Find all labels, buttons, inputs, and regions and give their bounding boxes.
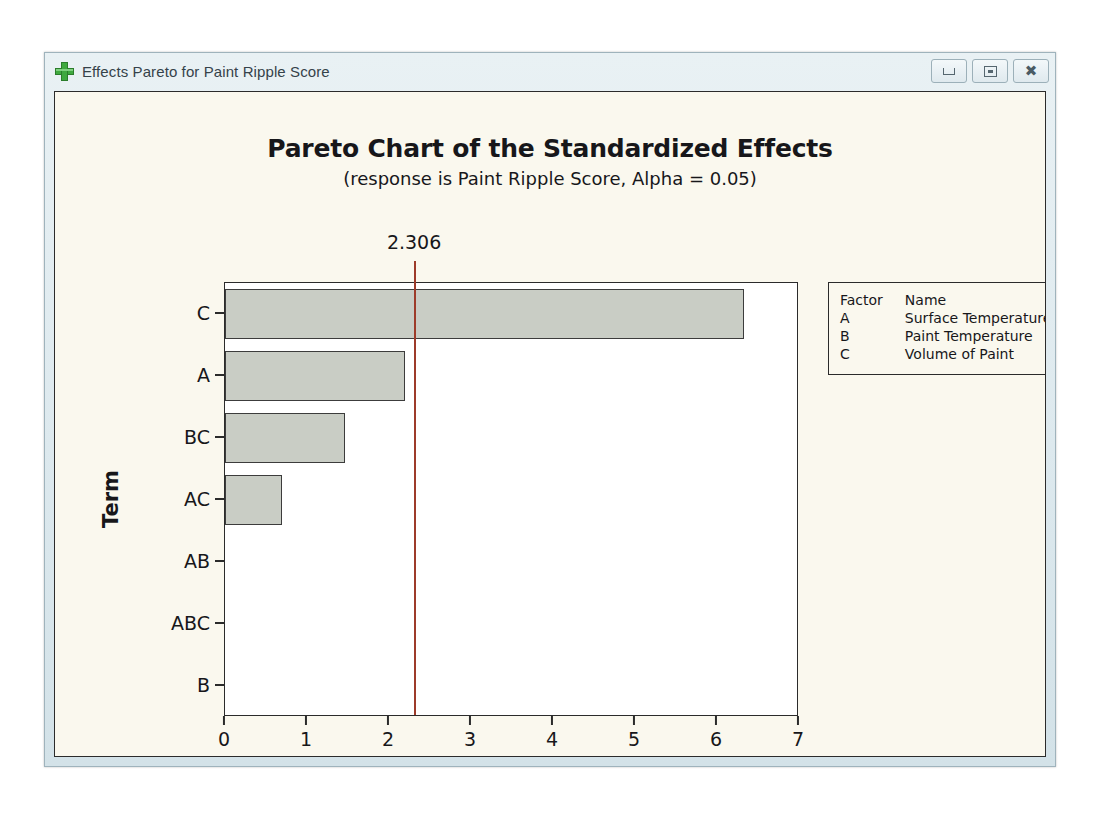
y-tick-label: AB <box>184 550 215 572</box>
y-tick-label: AC <box>184 488 215 510</box>
y-tick-mark <box>215 684 224 686</box>
y-tick-label: B <box>197 674 215 696</box>
bar-C <box>225 289 744 339</box>
reference-line <box>414 261 416 715</box>
x-tick-label: 5 <box>628 728 640 750</box>
x-tick-mark <box>305 716 307 725</box>
maximize-button[interactable] <box>972 59 1008 83</box>
x-tick-label: 4 <box>546 728 558 750</box>
bar-series <box>225 283 797 715</box>
legend-factor: C <box>840 346 905 364</box>
y-tick-AC: AC <box>55 488 224 510</box>
legend-factor: A <box>840 310 905 328</box>
y-tick-B: B <box>55 674 224 696</box>
legend-header-factor: Factor <box>840 292 905 310</box>
legend-row: CVolume of Paint <box>840 346 1046 364</box>
x-tick-4: 4 <box>546 716 558 750</box>
x-tick-label: 7 <box>792 728 804 750</box>
bar-BC <box>225 413 345 463</box>
y-tick-mark <box>215 622 224 624</box>
y-tick-label: C <box>197 302 215 324</box>
x-tick-3: 3 <box>464 716 476 750</box>
legend-row: BPaint Temperature <box>840 328 1046 346</box>
y-tick-mark <box>215 436 224 438</box>
x-tick-mark <box>797 716 799 725</box>
x-tick-mark <box>387 716 389 725</box>
reference-line-label: 2.306 <box>387 231 441 253</box>
legend-table: Factor Name ASurface TemperatureBPaint T… <box>840 292 1046 364</box>
x-tick-6: 6 <box>710 716 722 750</box>
bar-A <box>225 351 405 401</box>
x-tick-1: 1 <box>300 716 312 750</box>
window-controls: ✖ <box>931 59 1049 83</box>
y-tick-mark <box>215 560 224 562</box>
x-tick-label: 6 <box>710 728 722 750</box>
legend-name: Paint Temperature <box>905 328 1046 346</box>
y-tick-label: ABC <box>171 612 215 634</box>
x-tick-mark <box>633 716 635 725</box>
legend-name: Volume of Paint <box>905 346 1046 364</box>
x-tick-label: 1 <box>300 728 312 750</box>
y-tick-A: A <box>55 364 224 386</box>
window-title-bar[interactable]: Effects Pareto for Paint Ripple Score ✖ <box>45 53 1055 89</box>
close-icon: ✖ <box>1025 64 1038 79</box>
close-button[interactable]: ✖ <box>1013 59 1049 83</box>
x-tick-label: 2 <box>382 728 394 750</box>
legend-factor: B <box>840 328 905 346</box>
legend-header-name: Name <box>905 292 1046 310</box>
x-tick-mark <box>223 716 225 725</box>
pareto-chart-canvas: Pareto Chart of the Standardized Effects… <box>54 91 1046 757</box>
y-tick-mark <box>215 374 224 376</box>
legend-header-row: Factor Name <box>840 292 1046 310</box>
x-tick-label: 3 <box>464 728 476 750</box>
y-tick-C: C <box>55 302 224 324</box>
green-plus-icon <box>55 62 74 81</box>
x-tick-5: 5 <box>628 716 640 750</box>
y-tick-label: A <box>197 364 215 386</box>
bar-AC <box>225 475 282 525</box>
x-tick-2: 2 <box>382 716 394 750</box>
minimize-icon <box>943 68 955 75</box>
y-tick-label: BC <box>184 426 215 448</box>
x-tick-mark <box>551 716 553 725</box>
x-tick-mark <box>469 716 471 725</box>
legend-name: Surface Temperature <box>905 310 1046 328</box>
window-title: Effects Pareto for Paint Ripple Score <box>82 63 330 80</box>
chart-title: Pareto Chart of the Standardized Effects <box>55 134 1045 163</box>
x-tick-7: 7 <box>792 716 804 750</box>
x-tick-mark <box>715 716 717 725</box>
y-tick-AB: AB <box>55 550 224 572</box>
x-tick-label: 0 <box>218 728 230 750</box>
y-tick-mark <box>215 312 224 314</box>
minimize-button[interactable] <box>931 59 967 83</box>
y-tick-mark <box>215 498 224 500</box>
factor-legend: Factor Name ASurface TemperatureBPaint T… <box>828 282 1046 375</box>
chart-window: Effects Pareto for Paint Ripple Score ✖ … <box>44 52 1056 767</box>
maximize-icon <box>984 66 997 77</box>
y-tick-ABC: ABC <box>55 612 224 634</box>
x-tick-0: 0 <box>218 716 230 750</box>
plot-frame: 2.306 <box>224 282 798 716</box>
legend-row: ASurface Temperature <box>840 310 1046 328</box>
chart-subtitle: (response is Paint Ripple Score, Alpha =… <box>55 168 1045 189</box>
y-tick-BC: BC <box>55 426 224 448</box>
